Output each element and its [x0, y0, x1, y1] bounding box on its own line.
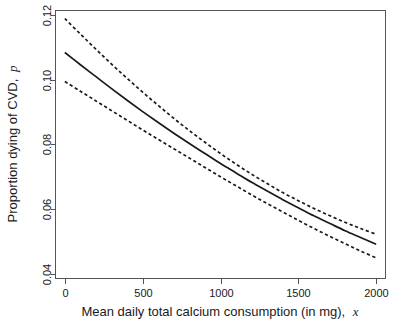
y-axis-title-symbol: p [5, 65, 20, 73]
y-tick-label-group: 0.08 [41, 134, 53, 155]
x-axis-title-symbol: x [352, 304, 359, 319]
x-tick-label: 1500 [286, 287, 310, 299]
svg-text:Mean daily total calcium consu: Mean daily total calcium consumption (in… [81, 304, 358, 319]
y-tick-label-group: 0.10 [41, 70, 53, 91]
y-tick-label: 0.12 [41, 5, 53, 26]
x-axis-title: Mean daily total calcium consumption (in… [81, 304, 358, 319]
y-tick-label: 0.10 [41, 70, 53, 91]
y-axis-title: Proportion dying of CVD, p [5, 65, 20, 222]
svg-text:Proportion dying of CVD,: Proportion dying of CVD, p [5, 65, 20, 222]
y-tick-label: 0.04 [41, 264, 53, 285]
y-tick-label-group: 0.06 [41, 199, 53, 220]
y-tick-label-group: 0.12 [41, 5, 53, 26]
x-tick-label: 1000 [209, 287, 233, 299]
y-tick-label: 0.08 [41, 134, 53, 155]
cvd-calcium-logistic-plot: 0.040.060.080.100.12 0500100015002000 Pr… [0, 0, 405, 328]
x-tick-label: 0 [62, 287, 68, 299]
x-axis-title-text: Mean daily total calcium consumption (in… [81, 304, 345, 319]
y-axis-title-text: Proportion dying of CVD, [5, 79, 20, 223]
x-tick-label: 500 [134, 287, 152, 299]
x-tick-label: 2000 [364, 287, 388, 299]
y-tick-label-group: 0.04 [41, 264, 53, 285]
chart-figure: 0.040.060.080.100.12 0500100015002000 Pr… [0, 0, 405, 328]
y-tick-label: 0.06 [41, 199, 53, 220]
